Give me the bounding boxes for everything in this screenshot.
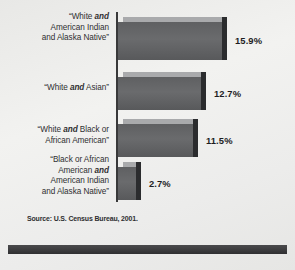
- bar-category-label: “Black or AfricanAmerican andAmerican In…: [5, 155, 109, 197]
- bar-front-face: [118, 77, 201, 110]
- bar-side-face: [201, 72, 206, 110]
- bar-side-face: [193, 119, 198, 157]
- bar-category-label-line: “Black or African: [5, 155, 109, 166]
- bar-side-face: [136, 162, 141, 200]
- plot-area: “White andAmerican Indianand Alaska Nati…: [0, 0, 295, 212]
- bar-category-label-line: American and: [5, 166, 109, 177]
- bar-side-face: [222, 17, 227, 60]
- bar-category-label-line: “White and Asian”: [5, 83, 109, 94]
- bar-value-label: 2.7%: [149, 178, 171, 189]
- bar-category-label-line: and Alaska Native”: [5, 187, 109, 198]
- bar-category-label: “White and Black orAfrican American”: [5, 125, 109, 146]
- bar-category-label-line: “White and: [5, 12, 109, 23]
- bar-chart-figure: “White andAmerican Indianand Alaska Nati…: [0, 0, 295, 270]
- source-note: Source: U.S. Census Bureau, 2001.: [27, 214, 138, 223]
- bar-category-label-line: African American”: [5, 136, 109, 147]
- bar-category-label-line: “White and Black or: [5, 125, 109, 136]
- bar-front-face: [118, 124, 193, 157]
- bar-category-label-line: American Indian: [5, 176, 109, 187]
- bar-category-label-line: American Indian: [5, 23, 109, 34]
- bar-category-label: “White andAmerican Indianand Alaska Nati…: [5, 12, 109, 44]
- bar-value-label: 12.7%: [214, 88, 241, 99]
- bar-value-label: 11.5%: [206, 135, 233, 146]
- bar-value-label: 15.9%: [235, 35, 262, 46]
- bar-front-face: [118, 167, 136, 200]
- bar-category-label: “White and Asian”: [5, 83, 109, 94]
- bar-front-face: [118, 22, 222, 60]
- bar-category-label-line: and Alaska Native”: [5, 33, 109, 44]
- bar: [118, 124, 198, 157]
- bar: [118, 77, 206, 110]
- footer-rule: [8, 245, 287, 254]
- bar: [118, 167, 141, 200]
- bar: [118, 22, 227, 60]
